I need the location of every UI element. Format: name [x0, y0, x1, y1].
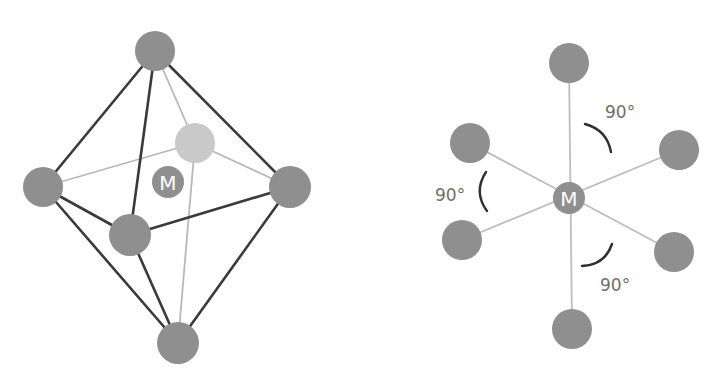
ligand-atom-top [135, 31, 175, 71]
ligand-atom-lower-right [654, 232, 694, 272]
metal-center: M [553, 182, 585, 214]
ligand-atom-back [175, 123, 215, 163]
angle-arc-left [480, 172, 487, 211]
angle-label-upper-right: 90° [605, 102, 635, 122]
metal-label: M [159, 171, 176, 195]
ligand-atom-bottom [157, 322, 199, 364]
ligand-atom-upper-left [450, 123, 490, 163]
angle-label-left: 90° [435, 185, 465, 205]
ligand-atom-bottom [552, 309, 592, 349]
ligand-atom-left [23, 167, 63, 207]
ligand-atom-lower-left [442, 220, 482, 260]
angle-arc-lower-right [582, 244, 612, 266]
ligand-atom-upper-right [659, 130, 699, 170]
ligand-atom-right [269, 166, 311, 208]
metal-center-3d: M [152, 166, 184, 198]
metal-label: M [560, 187, 577, 211]
ligand-atom-front [109, 214, 151, 256]
angle-label-lower-right: 90° [600, 275, 630, 295]
octahedron-3d-diagram: M [23, 31, 311, 364]
octahedral-geometry-figure: M M [0, 0, 724, 378]
edge-right-bottom [178, 187, 290, 343]
angle-arc-upper-right [585, 124, 611, 152]
edge-left-bottom [43, 187, 178, 343]
ligand-atom-top [549, 43, 589, 83]
bond-angle-diagram: M 90° 90° 90° [435, 43, 699, 349]
edge-front-right [130, 187, 290, 235]
edge-top-right [155, 51, 290, 187]
